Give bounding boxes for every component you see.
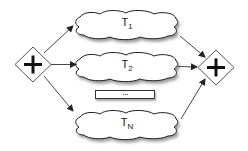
- arrow-tn-to-join: [181, 79, 205, 119]
- task-label-subscript: 2: [128, 64, 132, 73]
- arrow-split-to-t1: [44, 26, 73, 53]
- more-tasks-placeholder: ...: [95, 90, 155, 99]
- split-gateway: [15, 47, 51, 82]
- task-label-base: T: [121, 16, 128, 28]
- task-label-subscript: N: [127, 122, 133, 131]
- task-label-base: T: [121, 58, 128, 70]
- task-label-tn: TN: [121, 117, 134, 131]
- task-label-t2: T2: [121, 59, 132, 73]
- ellipsis-text: ...: [96, 87, 154, 97]
- task-label-subscript: 1: [128, 22, 132, 31]
- diagram-canvas: T1 T2 TN ...: [0, 0, 248, 151]
- arrow-t1-to-join: [180, 36, 205, 57]
- arrow-split-to-tn: [44, 76, 73, 111]
- task-label-t1: T1: [121, 17, 132, 31]
- task-label-base: T: [121, 116, 128, 128]
- arrow-t2-to-join: [178, 67, 197, 68]
